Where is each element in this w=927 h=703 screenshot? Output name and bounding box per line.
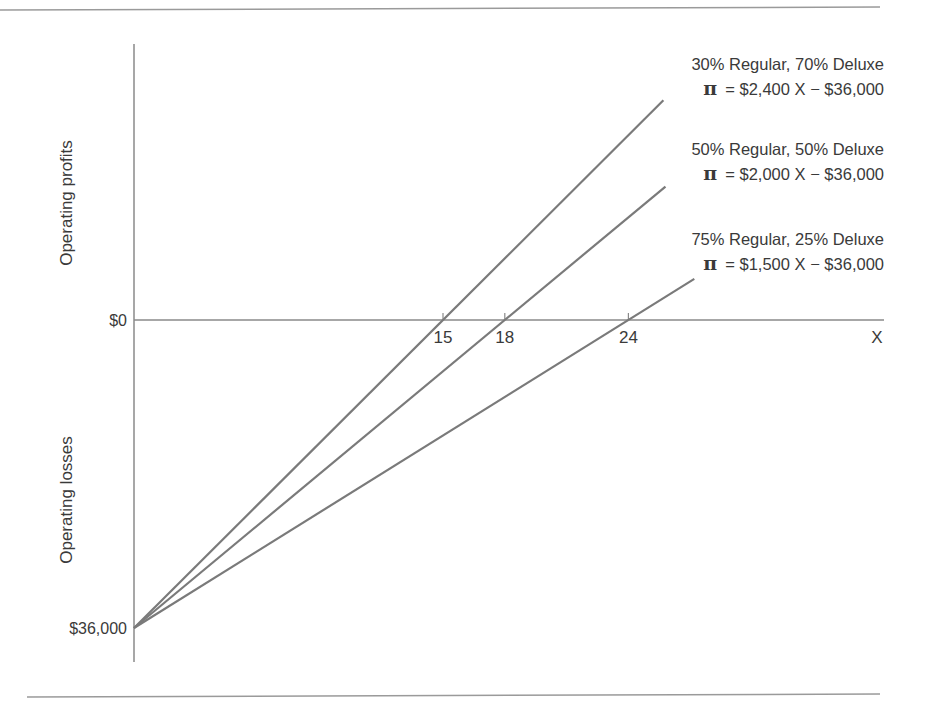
bottom-rule (27, 694, 880, 697)
annotation-50-50: 50% Regular, 50% Deluxe π= $2,000 X − $3… (691, 140, 884, 184)
top-rule (0, 7, 880, 10)
breakeven-chart: Operating profits Operating losses $0 $3… (0, 0, 927, 703)
series-line-75-25 (134, 279, 694, 628)
series-line-30-70 (134, 100, 663, 628)
y-tick-label: $36,000 (69, 620, 127, 637)
annotation-75-25: 75% Regular, 25% Deluxe π= $1,500 X − $3… (691, 230, 884, 274)
annotation-30-70: 30% Regular, 70% Deluxe π= $2,400 X − $3… (691, 55, 884, 99)
pi-symbol: π (703, 77, 717, 99)
series-equation-label: π= $2,000 X − $36,000 (703, 162, 884, 184)
series-name-label: 50% Regular, 50% Deluxe (691, 140, 884, 158)
series-lines (134, 100, 694, 628)
equation-text: = $1,500 X − $36,000 (725, 255, 884, 273)
equation-text: = $2,400 X − $36,000 (725, 80, 884, 98)
series-name-label: 30% Regular, 70% Deluxe (691, 55, 884, 73)
series-equation-label: π= $1,500 X − $36,000 (703, 252, 884, 274)
pi-symbol: π (703, 252, 717, 274)
y-axis-label-losses: Operating losses (57, 436, 76, 564)
y-axis-label-profits: Operating profits (57, 140, 76, 266)
series-line-50-50 (134, 187, 665, 628)
x-tick-label: 15 (434, 328, 453, 347)
series-name-label: 75% Regular, 25% Deluxe (691, 230, 884, 248)
x-tick-label: 18 (495, 328, 514, 347)
x-ticks: 15 18 24 (434, 313, 638, 347)
series-annotations: 30% Regular, 70% Deluxe π= $2,400 X − $3… (691, 55, 884, 274)
equation-text: = $2,000 X − $36,000 (725, 165, 884, 183)
y-tick-label: $0 (109, 312, 127, 329)
x-tick-label: 24 (619, 328, 638, 347)
pi-symbol: π (703, 162, 717, 184)
series-equation-label: π= $2,400 X − $36,000 (703, 77, 884, 99)
x-axis-label: X (871, 328, 882, 347)
